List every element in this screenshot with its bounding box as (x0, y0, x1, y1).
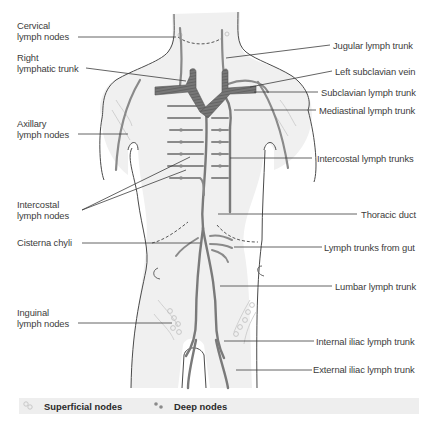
label-jugular-lymph-trunk: Jugular lymph trunk (333, 40, 413, 51)
label-lumbar-lymph-trunk: Lumbar lymph trunk (335, 281, 416, 292)
lymphatic-diagram: Cervical lymph nodes Right lymphatic tru… (0, 0, 434, 425)
label-lymph-trunks-from-gut: Lymph trunks from gut (324, 242, 415, 253)
label-line1: Intercostal (17, 199, 69, 210)
label-right-lymphatic-trunk: Right lymphatic trunk (17, 52, 79, 74)
superficial-node-icon (22, 401, 36, 411)
label-mediastinal-lymph-trunk: Mediastinal lymph trunk (319, 105, 415, 116)
label-line2: lymphatic trunk (17, 63, 79, 74)
legend-label: Superficial nodes (44, 401, 122, 412)
legend-item-superficial: Superficial nodes (22, 398, 122, 414)
label-line1: Cisterna chyli (17, 237, 72, 248)
legend-item-deep: Deep nodes (152, 398, 227, 414)
label-line2: lymph nodes (17, 129, 69, 140)
label-cisterna-chyli: Cisterna chyli (17, 237, 72, 248)
label-inguinal-lymph-nodes: Inguinal lymph nodes (17, 307, 69, 329)
label-intercostal-lymph-trunks: Intercostal lymph trunks (317, 153, 414, 164)
legend: Superficial nodes Deep nodes (19, 398, 419, 414)
label-line1: Cervical (17, 20, 69, 31)
body-outline (100, 12, 312, 388)
label-external-iliac-lymph-trunk: External iliac lymph trunk (313, 364, 415, 375)
label-line1: Axillary (17, 118, 69, 129)
label-internal-iliac-lymph-trunk: Internal iliac lymph trunk (316, 336, 414, 347)
label-line1: Right (17, 52, 79, 63)
label-thoracic-duct: Thoracic duct (361, 209, 416, 220)
label-intercostal-lymph-nodes: Intercostal lymph nodes (17, 199, 69, 221)
label-axillary-lymph-nodes: Axillary lymph nodes (17, 118, 69, 140)
label-line2: lymph nodes (17, 210, 69, 221)
deep-node-icon (152, 401, 166, 411)
label-line2: lymph nodes (17, 31, 69, 42)
label-line2: lymph nodes (17, 318, 69, 329)
legend-label: Deep nodes (174, 401, 227, 412)
label-subclavian-lymph-trunk: Subclavian lymph trunk (321, 87, 416, 98)
label-cervical-lymph-nodes: Cervical lymph nodes (17, 20, 69, 42)
label-left-subclavian-vein: Left subclavian vein (335, 66, 415, 77)
label-line1: Inguinal (17, 307, 69, 318)
